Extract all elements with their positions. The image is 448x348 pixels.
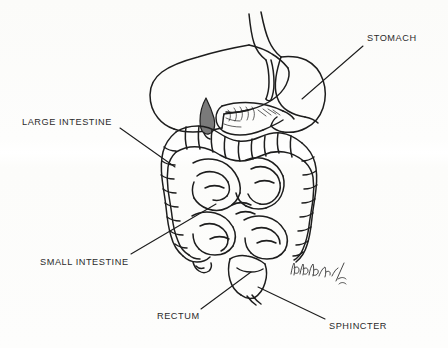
label-stomach: STOMACH [367,33,417,43]
leader-lines [120,46,363,319]
descending-colon-organ [293,143,317,262]
rectum-organ [229,256,267,299]
cecum-appendix-organ [183,255,211,273]
label-small-intestine: SMALL INTESTINE [40,257,129,267]
small-intestine-organ [192,158,287,259]
gallbladder-organ [200,98,215,139]
sphincter-organ [247,295,261,305]
leader-line-large-intestine [120,128,175,167]
label-rectum: RECTUM [157,311,200,321]
leader-line-small-intestine [131,204,216,254]
digestive-system-illustration [0,0,448,348]
label-sphincter: SPHINCTER [329,321,387,331]
label-large-intestine: LARGE INTESTINE [22,117,112,127]
leader-line-rectum [201,272,251,309]
artist-signature [291,263,346,284]
leader-line-sphincter [258,287,325,319]
ascending-colon-organ [161,132,189,256]
leader-line-stomach [302,46,363,99]
diagram-canvas: STOMACH LARGE INTESTINE SMALL INTESTINE … [0,0,448,348]
